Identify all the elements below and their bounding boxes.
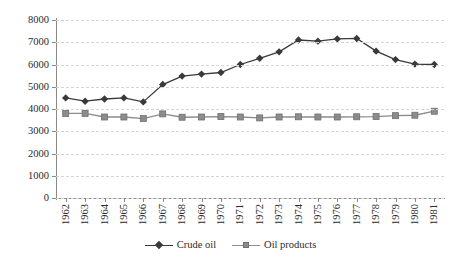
y-tick-mark (52, 87, 56, 88)
square-marker-icon (82, 110, 88, 116)
x-tick-mark (221, 198, 222, 202)
square-marker-icon (121, 114, 127, 120)
legend-item-crude-oil[interactable]: Crude oil (145, 240, 216, 251)
x-tick-mark (143, 198, 144, 202)
gridline (56, 131, 444, 132)
legend-item-oil-products[interactable]: Oil products (232, 240, 316, 251)
x-tick-label: 1962 (61, 204, 72, 225)
diamond-marker-icon (217, 69, 224, 76)
x-tick-label: 1972 (255, 204, 266, 225)
x-tick-mark (105, 198, 106, 202)
gridline (56, 176, 444, 177)
square-marker-icon (102, 114, 108, 120)
y-tick-mark (52, 176, 56, 177)
series-line-crude-oil (66, 38, 435, 101)
x-tick-mark (415, 198, 416, 202)
x-tick-mark (66, 198, 67, 202)
x-tick-mark (182, 198, 183, 202)
diamond-marker-icon (372, 47, 379, 54)
y-tick-mark (52, 154, 56, 155)
y-tick-label: 2000 (28, 148, 49, 159)
x-tick-label: 1975 (313, 204, 324, 225)
diamond-marker-icon (101, 95, 108, 102)
y-tick-label: 6000 (28, 59, 49, 70)
square-marker-icon (199, 114, 205, 120)
square-marker-icon (140, 116, 146, 122)
x-tick-label: 1976 (332, 204, 343, 225)
x-tick-label: 1979 (391, 204, 402, 225)
y-tick-mark (52, 42, 56, 43)
square-marker-icon (160, 111, 166, 117)
y-tick-label: 8000 (28, 15, 49, 26)
x-tick-label: 1968 (177, 204, 188, 225)
diamond-marker-icon (314, 37, 321, 44)
diamond-marker-icon (275, 48, 282, 55)
line-chart: 010002000300040005000600070008000 196219… (0, 0, 461, 265)
gridline (56, 154, 444, 155)
square-marker-icon (232, 240, 260, 250)
square-marker-icon (257, 115, 263, 121)
x-tick-label: 1965 (119, 204, 130, 225)
legend-label-crude-oil: Crude oil (177, 240, 216, 251)
diamond-marker-icon (178, 72, 185, 79)
diamond-marker-icon (353, 35, 360, 42)
square-marker-icon (412, 112, 418, 118)
gridline (56, 87, 444, 88)
square-marker-icon (179, 114, 185, 120)
x-tick-mark (279, 198, 280, 202)
square-marker-icon (63, 110, 69, 116)
square-marker-icon (334, 114, 340, 120)
x-tick-mark (376, 198, 377, 202)
diamond-marker-icon (81, 98, 88, 105)
x-tick-label: 1970 (216, 204, 227, 225)
x-tick-mark (163, 198, 164, 202)
x-tick-label: 1978 (371, 204, 382, 225)
x-tick-label: 1981 (429, 204, 440, 225)
diamond-marker-icon (392, 56, 399, 63)
square-marker-icon (354, 114, 360, 120)
y-tick-mark (52, 20, 56, 21)
y-tick-label: 5000 (28, 82, 49, 93)
x-tick-mark (202, 198, 203, 202)
diamond-marker-icon (256, 55, 263, 62)
x-tick-mark (396, 198, 397, 202)
y-tick-mark (52, 198, 56, 199)
diamond-marker-icon (198, 70, 205, 77)
square-marker-icon (315, 114, 321, 120)
square-marker-icon (393, 113, 399, 119)
x-tick-label: 1969 (197, 204, 208, 225)
x-tick-label: 1966 (138, 204, 149, 225)
square-marker-icon (218, 114, 224, 120)
y-tick-mark (52, 131, 56, 132)
y-tick-label: 0 (44, 193, 49, 204)
diamond-marker-icon (145, 240, 173, 250)
x-tick-mark (260, 198, 261, 202)
x-tick-label: 1973 (274, 204, 285, 225)
y-tick-label: 1000 (28, 171, 49, 182)
x-tick-label: 1977 (352, 204, 363, 225)
x-tick-label: 1971 (235, 204, 246, 225)
square-marker-icon (276, 114, 282, 120)
square-marker-icon (373, 114, 379, 120)
gridline (56, 42, 444, 43)
x-tick-label: 1967 (158, 204, 169, 225)
square-marker-icon (237, 114, 243, 120)
gridline (56, 65, 444, 66)
x-tick-label: 1974 (294, 204, 305, 225)
x-tick-mark (240, 198, 241, 202)
x-tick-mark (434, 198, 435, 202)
plot-area: 010002000300040005000600070008000 (56, 20, 444, 198)
y-tick-label: 4000 (28, 104, 49, 115)
square-marker-icon (296, 114, 302, 120)
x-tick-mark (318, 198, 319, 202)
x-tick-mark (299, 198, 300, 202)
diamond-marker-icon (120, 94, 127, 101)
y-tick-mark (52, 109, 56, 110)
gridline (56, 109, 444, 110)
x-tick-mark (357, 198, 358, 202)
y-tick-mark (52, 65, 56, 66)
x-tick-mark (85, 198, 86, 202)
x-tick-mark (124, 198, 125, 202)
x-tick-label: 1964 (100, 204, 111, 225)
y-tick-label: 7000 (28, 37, 49, 48)
